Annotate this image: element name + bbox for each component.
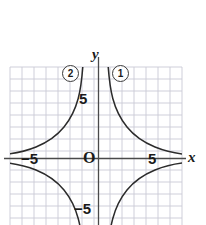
grid-lines — [10, 67, 182, 225]
x-tick-label-5: 5 — [148, 151, 156, 166]
x-axis-label: x — [188, 150, 196, 165]
y-tick-label-minus5: −5 — [74, 201, 91, 216]
graph-figure: y x 5 −5 −5 5 O 1 2 — [0, 0, 206, 225]
origin-label: O — [83, 150, 95, 166]
x-tick-label-minus5: −5 — [21, 151, 38, 166]
curve-tag-2: 2 — [62, 65, 79, 82]
y-axis-label: y — [92, 47, 99, 62]
curve-tag-1: 1 — [112, 65, 129, 82]
coordinate-plane-svg — [0, 0, 206, 225]
y-tick-label-5: 5 — [79, 91, 87, 106]
